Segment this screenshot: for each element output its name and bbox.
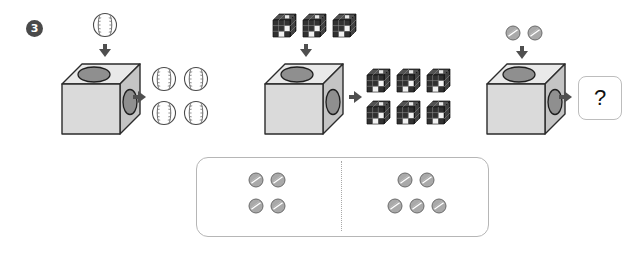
answer-coin	[431, 198, 447, 214]
answer-coin	[387, 198, 403, 214]
example-2-output-block	[426, 100, 451, 125]
example-1-machine	[58, 58, 144, 140]
arrow-right-icon	[559, 91, 572, 103]
answer-coin	[270, 198, 286, 214]
example-1-input-baseball	[92, 12, 118, 38]
question-mark-box[interactable]: ?	[578, 76, 622, 120]
answer-coin	[419, 172, 435, 188]
example-2-input-block	[332, 13, 357, 38]
example-2-output-block	[396, 68, 421, 93]
example-1-output-baseball	[151, 100, 177, 126]
example-2-output-block	[396, 100, 421, 125]
answer-coin	[248, 198, 264, 214]
arrow-down-icon	[300, 44, 312, 57]
answer-coin	[270, 172, 286, 188]
answer-option-left[interactable]	[248, 172, 296, 220]
example-2-machine	[261, 58, 347, 140]
example-2-input-block	[302, 13, 327, 38]
answer-coin	[248, 172, 264, 188]
example-2-input-block	[272, 13, 297, 38]
arrow-down-icon	[99, 44, 111, 57]
example-3-input-coin	[505, 25, 521, 41]
example-3-input-coin	[527, 25, 543, 41]
arrow-right-icon	[349, 91, 362, 103]
arrow-right-icon	[133, 91, 146, 103]
answer-coin	[397, 172, 413, 188]
example-1-output-baseball	[183, 66, 209, 92]
example-3-machine	[483, 58, 569, 140]
example-2-output-block	[366, 68, 391, 93]
answer-options-divider	[341, 161, 342, 231]
example-1-output-baseball	[183, 100, 209, 126]
example-2-output-block	[426, 68, 451, 93]
answer-option-right[interactable]	[389, 172, 449, 220]
example-2-output-block	[366, 100, 391, 125]
example-1-output-baseball	[151, 66, 177, 92]
problem-number-badge: 3	[26, 20, 43, 37]
answer-coin	[409, 198, 425, 214]
